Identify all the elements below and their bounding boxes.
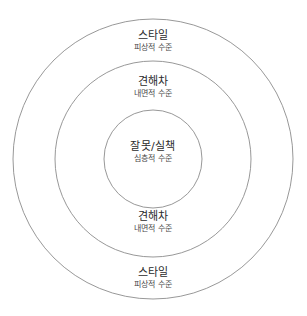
middle-ring-title-bottom: 견해차	[53, 211, 253, 222]
middle-ring-subtitle-top: 내면적 수준	[53, 90, 253, 98]
outer-ring-label-top: 스타일 피상적 수준	[53, 30, 253, 52]
center-circle-subtitle: 심층적 수준	[53, 155, 253, 163]
middle-ring-label-bottom: 견해차 내면적 수준	[53, 211, 253, 233]
outer-ring-label-bottom: 스타일 피상적 수준	[53, 267, 253, 289]
outer-ring-title-top: 스타일	[53, 30, 253, 41]
middle-ring-label-top: 견해차 내면적 수준	[53, 76, 253, 98]
outer-ring-subtitle-top: 피상적 수준	[53, 44, 253, 52]
middle-ring-subtitle-bottom: 내면적 수준	[53, 225, 253, 233]
center-circle-title: 잘못/실책	[53, 141, 253, 152]
outer-ring-subtitle-bottom: 피상적 수준	[53, 281, 253, 289]
concentric-circles-diagram: 스타일 피상적 수준 견해차 내면적 수준 잘못/실책 심층적 수준 견해차 내…	[0, 0, 307, 316]
outer-ring-title-bottom: 스타일	[53, 267, 253, 278]
middle-ring-title-top: 견해차	[53, 76, 253, 87]
center-circle-label: 잘못/실책 심층적 수준	[53, 141, 253, 163]
